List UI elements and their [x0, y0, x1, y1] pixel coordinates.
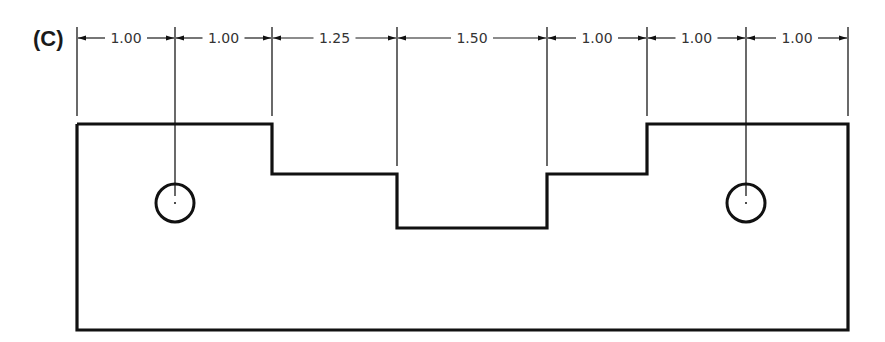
extension-lines: [77, 27, 848, 196]
arrowhead-icon: [273, 36, 281, 41]
arrowhead-icon: [548, 36, 556, 41]
dimension: 1.00: [548, 30, 646, 46]
arrowhead-icon: [398, 36, 406, 41]
dimension: 1.00: [176, 30, 271, 46]
arrowhead-icon: [176, 36, 184, 41]
center-point: [745, 202, 747, 204]
arrowhead-icon: [839, 36, 847, 41]
arrowhead-icon: [638, 36, 646, 41]
dimension-value: 1.00: [581, 30, 612, 46]
holes: [156, 184, 765, 222]
part-outline: [77, 124, 848, 330]
dimension-value: 1.00: [208, 30, 239, 46]
dimension-value: 1.00: [781, 30, 812, 46]
dimension: 1.00: [747, 30, 847, 46]
technical-drawing: (C) 1.001.001.251.501.001.001.00: [0, 0, 885, 342]
arrowhead-icon: [737, 36, 745, 41]
dimension-value: 1.50: [456, 30, 487, 46]
arrowhead-icon: [78, 36, 86, 41]
dimension: 1.50: [398, 30, 546, 46]
dimension-chain: 1.001.001.251.501.001.001.00: [78, 30, 847, 46]
arrowhead-icon: [166, 36, 174, 41]
arrowhead-icon: [747, 36, 755, 41]
dimension: 1.00: [78, 30, 174, 46]
arrowhead-icon: [648, 36, 656, 41]
dimension-value: 1.25: [319, 30, 350, 46]
center-point: [174, 202, 176, 204]
dimension-value: 1.00: [681, 30, 712, 46]
dimension: 1.00: [648, 30, 745, 46]
arrowhead-icon: [388, 36, 396, 41]
dimension: 1.25: [273, 30, 396, 46]
arrowhead-icon: [538, 36, 546, 41]
dimension-value: 1.00: [110, 30, 141, 46]
arrowhead-icon: [263, 36, 271, 41]
part-label: (C): [33, 26, 64, 51]
